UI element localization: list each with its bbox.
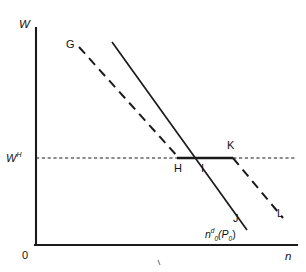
x-axis-label: n — [285, 251, 291, 263]
point-label-i: I — [201, 163, 204, 174]
y-axis-label: W — [19, 19, 30, 31]
curve-label-argument-open: (P — [218, 228, 229, 240]
point-label-g: G — [66, 39, 75, 50]
demand-curve-dashed-lower — [233, 158, 283, 218]
curve-label-demand: nd0(P0) — [205, 228, 236, 242]
point-label-h: H — [174, 163, 182, 174]
wage-floor-label-superscript: H — [16, 151, 21, 158]
curve-label-argument-close: ) — [232, 228, 236, 240]
point-label-j: J — [233, 213, 239, 224]
x-axis-tick-mark — [158, 260, 160, 265]
origin-label: 0 — [22, 250, 28, 261]
curve-label-superscript: d — [211, 227, 215, 234]
wage-floor-label: WH — [6, 151, 21, 164]
plot-canvas — [0, 0, 306, 272]
point-label-k: K — [227, 140, 234, 151]
figure-container: W n 0 WH G H I K J L nd0(P0) — [0, 0, 306, 272]
demand-curve-solid — [112, 42, 247, 230]
wage-floor-label-base: W — [6, 152, 16, 164]
demand-curve-dashed-upper — [79, 47, 178, 157]
point-label-l: L — [277, 208, 283, 219]
